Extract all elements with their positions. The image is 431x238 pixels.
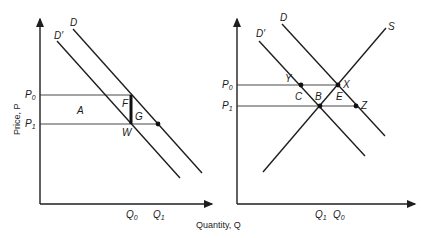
right-panel: D D′ S Y X C B E Z P0 P1 Q1 Q0 bbox=[222, 12, 415, 221]
right-dot-z bbox=[354, 104, 359, 109]
left-demand-d-prime bbox=[57, 41, 180, 178]
right-label-x: X bbox=[342, 79, 350, 90]
x-axis-title: Quantity, Q bbox=[196, 220, 241, 230]
right-supply-s bbox=[263, 28, 386, 172]
right-label-d-prime: D′ bbox=[256, 28, 266, 39]
right-label-q1: Q1 bbox=[315, 209, 327, 221]
right-label-s: S bbox=[388, 21, 395, 32]
left-label-q1: Q1 bbox=[153, 209, 165, 221]
right-demand-d bbox=[282, 24, 385, 136]
left-panel: D D′ A F G W P0 P1 Q0 Q1 Price, P Quanti… bbox=[12, 17, 241, 230]
left-label-p0: P0 bbox=[25, 89, 36, 101]
left-label-p1: P1 bbox=[25, 118, 36, 130]
right-demand-d-prime bbox=[259, 41, 365, 156]
right-label-z: Z bbox=[360, 100, 368, 111]
left-label-g: G bbox=[135, 111, 143, 122]
right-label-q0: Q0 bbox=[333, 209, 345, 221]
right-label-d: D bbox=[280, 12, 287, 23]
left-label-q0: Q0 bbox=[126, 209, 138, 221]
y-axis-title: Price, P bbox=[12, 103, 22, 135]
right-label-c: C bbox=[295, 91, 303, 102]
right-dot-x bbox=[336, 83, 341, 88]
left-label-f: F bbox=[122, 98, 129, 109]
left-point-dot bbox=[156, 122, 161, 127]
left-label-a: A bbox=[76, 105, 84, 116]
left-label-w: W bbox=[122, 127, 133, 138]
right-label-p1: P1 bbox=[222, 100, 233, 112]
right-dot-c bbox=[299, 83, 304, 88]
right-label-b: B bbox=[315, 91, 322, 102]
left-label-d-prime: D′ bbox=[54, 30, 64, 41]
left-label-d: D bbox=[70, 17, 77, 28]
right-label-y: Y bbox=[285, 73, 293, 84]
right-dot-b bbox=[318, 104, 323, 109]
left-demand-d bbox=[73, 29, 202, 173]
right-label-p0: P0 bbox=[222, 79, 233, 91]
right-label-e: E bbox=[336, 91, 343, 102]
diagram-canvas: D D′ A F G W P0 P1 Q0 Q1 Price, P Quanti… bbox=[0, 0, 431, 238]
